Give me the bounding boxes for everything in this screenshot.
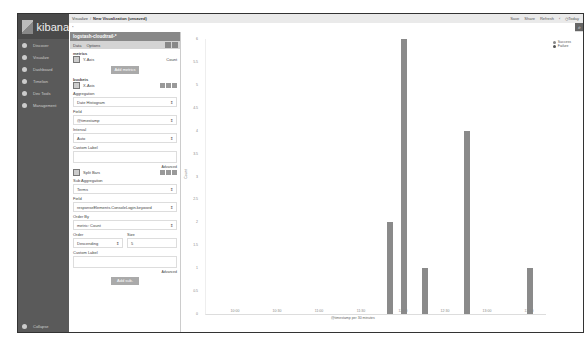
y-axis-row[interactable]: Y-Axis Count [73,56,177,63]
add-sub-buckets-button[interactable]: Add sub-buckets [111,277,139,285]
vis-editor-sidebar: logstash-cloudtrail-* Data Options metri… [70,32,181,332]
field2-select[interactable]: responseElements.ConsoleLogin.keyword⇕ [73,202,177,212]
bucket-controls [160,170,177,175]
bar-chart-icon [22,55,27,60]
toggle-icon[interactable] [160,170,165,175]
order-by-label: Order By [73,214,177,219]
sidebar: kibana Discover Visualize Dashboard Time… [18,14,69,332]
y-axis-label: Y-Axis [83,57,94,62]
caret-icon: ⇕ [170,205,173,210]
y-tick: 3 [184,175,198,179]
aggregation-select[interactable]: Date Histogram⇕ [73,97,177,107]
sidebar-item-discover[interactable]: Discover [18,40,69,51]
add-metrics-button[interactable]: Add metrics [111,66,139,74]
time-picker[interactable]: ◷Today [565,16,579,21]
x-tick: 12:00 [399,309,408,313]
order-label: Order [73,232,123,237]
editor-tabs: Data Options [70,41,180,49]
nav-label: Visualize [33,55,49,60]
chart-area: Count 65.554.543.532.521.510.50 10:0010:… [181,32,583,332]
interval-select[interactable]: Auto⇕ [73,133,177,143]
sidebar-item-visualize[interactable]: Visualize [18,52,69,63]
chevron-left-icon[interactable]: ‹ [559,16,560,21]
kibana-logo[interactable]: kibana [18,14,69,39]
caret-icon: ⇕ [170,223,173,228]
order-by-select[interactable]: metric: Count⇕ [73,220,177,230]
expand-icon[interactable] [73,56,80,63]
tab-options[interactable]: Options [86,43,100,48]
chart-bar[interactable] [464,131,470,314]
discard-icon[interactable] [172,42,178,48]
refresh-button[interactable]: Refresh [540,16,554,21]
y-tick: 5.5 [184,60,198,64]
field2-label: Field [73,196,177,201]
sub-aggregation-value: Terms [77,187,88,192]
interval-value: Auto [77,136,85,141]
tab-data[interactable]: Data [73,43,81,48]
y-tick: 4.5 [184,106,198,110]
search-input[interactable] [69,23,575,32]
query-bar: ⌕ [69,23,583,32]
nav-label: Management [33,103,56,108]
top-actions: Save Share Refresh ‹ ◷Today [510,16,583,21]
caret-icon: ⇕ [170,100,173,105]
sidebar-item-management[interactable]: Management [18,100,69,111]
move-icon[interactable] [166,170,171,175]
toggle-icon[interactable] [160,83,165,88]
expand-icon[interactable] [73,82,80,89]
expand-icon[interactable] [73,169,80,176]
custom-label-input[interactable] [73,151,177,163]
x-tick: 10:30 [273,309,282,313]
search-icon: ⌕ [578,24,581,30]
plot-area [205,39,546,315]
logo-text: kibana [37,21,69,33]
split-bars-row[interactable]: Split Bars [73,169,177,176]
x-tick: 10:00 [231,309,240,313]
nav-label: Dev Tools [33,91,51,96]
order-size-inputs: Descending⇕ 5 [73,237,177,248]
kibana-window: kibana Discover Visualize Dashboard Time… [17,13,584,333]
legend-item-failure[interactable]: Failure [553,44,571,48]
y-axis-value: Count [166,57,177,62]
legend-dot-icon [553,41,556,44]
breadcrumb-visualize[interactable]: Visualize [72,16,88,21]
size-input[interactable]: 5 [127,238,177,248]
remove-icon[interactable] [172,83,177,88]
custom-label-label: Custom Label [73,145,177,150]
apply-icon[interactable] [165,42,171,48]
x-axis-label: X-Axis [83,83,95,88]
share-button[interactable]: Share [524,16,535,21]
collapse-button[interactable]: Collapse [22,324,49,329]
compass-icon [22,43,27,48]
y-tick: 3.5 [184,152,198,156]
nav-label: Dashboard [33,67,53,72]
save-button[interactable]: Save [510,16,519,21]
sidebar-item-timelion[interactable]: Timelion [18,76,69,87]
sub-aggregation-select[interactable]: Terms⇕ [73,184,177,194]
x-tick: 13:00 [483,309,492,313]
remove-icon[interactable] [172,170,177,175]
y-tick: 5 [184,83,198,87]
y-tick: 6 [184,37,198,41]
aggregation-label: Aggregation [73,91,177,96]
x-tick: 11:00 [315,309,324,313]
order-select[interactable]: Descending⇕ [73,238,123,248]
chart-bar[interactable] [422,268,428,314]
chart-bar[interactable] [387,222,393,314]
page-title: New Visualization (unsaved) [93,16,147,21]
caret-icon: ⇕ [170,118,173,123]
chart-bar[interactable] [401,39,407,314]
x-axis-row[interactable]: X-Axis [73,82,177,89]
field-select[interactable]: @timestamp⇕ [73,115,177,125]
move-icon[interactable] [166,83,171,88]
legend: Success Failure [553,40,571,48]
search-button[interactable]: ⌕ [575,23,583,31]
gear-icon [22,103,27,108]
chart-bar[interactable] [527,268,533,314]
advanced2-toggle[interactable]: Advanced [73,270,177,274]
editor-controls [165,42,180,48]
sidebar-item-dev-tools[interactable]: Dev Tools [18,88,69,99]
sidebar-item-dashboard[interactable]: Dashboard [18,64,69,75]
custom-label2-input[interactable] [73,256,177,268]
interval-label: Interval [73,127,177,132]
